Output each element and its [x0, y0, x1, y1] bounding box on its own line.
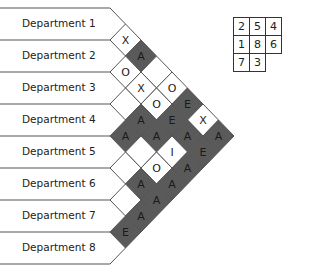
- relationship-code: E: [184, 98, 191, 111]
- department-label: Department 7: [22, 209, 96, 221]
- department-label: Department 1: [22, 17, 96, 29]
- relationship-code: A: [153, 130, 161, 143]
- relationship-code: E: [169, 114, 176, 127]
- layout-grid-cell: 1: [233, 35, 250, 54]
- chevron-edge: [110, 248, 126, 264]
- relationship-code: I: [170, 146, 173, 159]
- layout-grid-cell: 7: [233, 53, 250, 72]
- relationship-code: A: [153, 194, 161, 207]
- relationship-code: X: [137, 82, 145, 95]
- department-label: Department 5: [22, 145, 96, 157]
- department-label: Department 6: [22, 177, 96, 189]
- layout-grid-cell: 3: [249, 53, 266, 72]
- relationship-code: A: [137, 114, 145, 127]
- department-label: Department 8: [22, 241, 96, 253]
- department-label: Department 2: [22, 49, 96, 61]
- relationship-code: X: [122, 34, 130, 47]
- relationship-code: E: [122, 226, 129, 239]
- chevron-edge: [110, 8, 126, 24]
- relationship-code: A: [137, 50, 145, 63]
- layout-grid-cell: 8: [249, 35, 266, 54]
- relationship-code: O: [152, 98, 161, 111]
- department-label: Department 3: [22, 81, 96, 93]
- relationship-code: A: [184, 162, 192, 175]
- relationship-code: A: [137, 210, 145, 223]
- relationship-code: A: [215, 130, 223, 143]
- relationship-code: A: [168, 178, 176, 191]
- department-label: Department 4: [22, 113, 96, 125]
- relationship-code: A: [122, 130, 130, 143]
- layout-grid-cell: 6: [265, 35, 282, 54]
- relationship-code: O: [168, 82, 177, 95]
- layout-grid-cell: 5: [249, 17, 266, 36]
- relationship-code: A: [184, 130, 192, 143]
- relationship-code: O: [121, 66, 130, 79]
- relationship-code: O: [152, 162, 161, 175]
- relationship-code: A: [137, 178, 145, 191]
- layout-grid-cell: 4: [265, 17, 282, 36]
- relationship-code: X: [199, 114, 207, 127]
- layout-grid-cell: 2: [233, 17, 250, 36]
- relationship-code: E: [200, 146, 207, 159]
